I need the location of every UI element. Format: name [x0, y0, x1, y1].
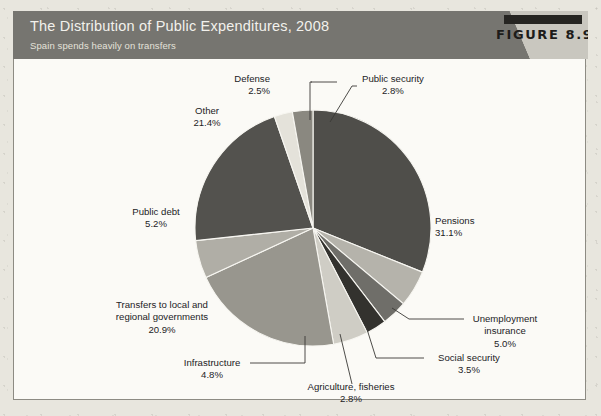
callout-defense-value: 2.5%	[190, 85, 270, 97]
callout-transfers-label-line1: Transfers to local and	[116, 299, 208, 310]
callout-transfers-label-line2: regional governments	[92, 311, 232, 323]
callout-social-security: Social security 3.5%	[427, 352, 511, 377]
callout-unemployment-label-line2: insurance	[464, 325, 546, 337]
figure-container: The Distribution of Public Expenditures,…	[0, 0, 601, 416]
figure-header-bar: The Distribution of Public Expenditures,…	[13, 11, 588, 59]
callout-defense: Defense 2.5%	[190, 73, 270, 98]
callout-unemployment: Unemployment insurance 5.0%	[464, 313, 546, 350]
callout-transfers-value: 20.9%	[92, 324, 232, 336]
callout-infrastructure: Infrastructure 4.8%	[176, 357, 248, 382]
callout-public-security-label: Public security	[362, 73, 424, 84]
callout-infrastructure-label: Infrastructure	[184, 357, 241, 368]
callout-agriculture: Agriculture, fisheries 2.8%	[290, 381, 412, 406]
callout-other-value: 21.4%	[176, 117, 238, 129]
figure-title: The Distribution of Public Expenditures,…	[30, 18, 329, 34]
callout-unemployment-label-line1: Unemployment	[473, 313, 538, 324]
figure-subtitle: Spain spends heavily on transfers	[30, 40, 176, 51]
callout-pensions-label: Pensions	[435, 215, 474, 226]
callout-defense-label: Defense	[234, 73, 270, 84]
callout-unemployment-value: 5.0%	[464, 338, 546, 350]
callout-public-security: Public security 2.8%	[362, 73, 424, 98]
callout-transfers: Transfers to local and regional governme…	[92, 299, 232, 336]
figure-number-badge: FIGURE 8.9	[496, 15, 582, 42]
callout-other: Other 21.4%	[176, 105, 238, 130]
callout-social-security-value: 3.5%	[427, 364, 511, 376]
callout-other-label: Other	[195, 105, 219, 116]
callout-infrastructure-value: 4.8%	[176, 369, 248, 381]
callout-pensions: Pensions 31.1%	[435, 215, 474, 240]
callout-social-security-label: Social security	[438, 352, 500, 363]
figure-number-label: FIGURE 8.9	[496, 27, 582, 42]
callout-pensions-value: 31.1%	[435, 227, 474, 239]
callout-public-debt-value: 5.2%	[118, 218, 194, 230]
figure-badge-rule	[504, 15, 582, 24]
callout-public-debt-label: Public debt	[132, 206, 179, 217]
callout-agriculture-value: 2.8%	[290, 393, 412, 405]
callout-agriculture-label: Agriculture, fisheries	[308, 381, 395, 392]
callout-public-security-value: 2.8%	[362, 85, 424, 97]
callout-public-debt: Public debt 5.2%	[118, 206, 194, 231]
